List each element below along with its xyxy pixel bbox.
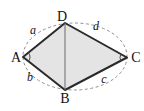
side-label-d: d xyxy=(93,19,100,33)
side-label-c: c xyxy=(101,72,107,86)
vertex-label-d: D xyxy=(57,9,67,24)
vertex-label-c: C xyxy=(131,50,140,65)
side-label-b: b xyxy=(27,70,33,84)
kite-diagram-svg: D A C B a d b c xyxy=(0,0,144,111)
geometry-figure: D A C B a d b c xyxy=(0,0,144,111)
vertex-label-b: B xyxy=(60,91,69,106)
vertex-label-a: A xyxy=(11,50,22,65)
side-label-a: a xyxy=(30,23,36,37)
